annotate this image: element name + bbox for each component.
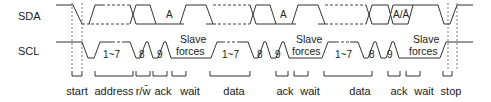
scl-bit9-3: 9 bbox=[387, 49, 393, 60]
scl-bit8-1: 8 bbox=[139, 49, 145, 60]
scl-slave-forces-2b: forces bbox=[292, 45, 321, 57]
scl-slave-forces-3b: forces bbox=[409, 45, 438, 57]
sda-waveform bbox=[56, 5, 473, 24]
scl-bits-3: 1~7 bbox=[335, 49, 352, 60]
scl-label: SCL bbox=[18, 45, 39, 57]
phase-wait-1: wait bbox=[179, 85, 200, 97]
phase-stop: stop bbox=[441, 85, 462, 97]
phase-wait-3: wait bbox=[413, 85, 434, 97]
scl-bit9-2: 9 bbox=[275, 49, 281, 60]
sda-ack-1: A bbox=[166, 9, 173, 20]
phase-brackets bbox=[72, 71, 452, 76]
sda-label: SDA bbox=[18, 10, 41, 22]
phase-data-2: data bbox=[349, 85, 371, 97]
scl-slave-forces-1b: forces bbox=[176, 45, 205, 57]
scl-bits-1: 1~7 bbox=[103, 49, 120, 60]
scl-slave-forces-3a: Slave bbox=[413, 33, 439, 45]
i2c-timing-diagram: SDA SCL bbox=[0, 0, 491, 102]
phase-ack-1: ack bbox=[154, 85, 172, 97]
phase-address: address bbox=[94, 85, 134, 97]
scl-slave-forces-1a: Slave bbox=[180, 33, 206, 45]
phase-start: start bbox=[66, 85, 87, 97]
scl-bit8-2: 8 bbox=[257, 49, 263, 60]
scl-bit8-3: 8 bbox=[369, 49, 375, 60]
sda-ack-3: A/Ā bbox=[393, 9, 409, 20]
phase-ack-3: ack bbox=[390, 85, 408, 97]
scl-bit9-1: 9 bbox=[157, 49, 163, 60]
sda-ack-2: A bbox=[280, 9, 287, 20]
phase-ack-2: ack bbox=[276, 85, 294, 97]
phase-data-1: data bbox=[223, 85, 245, 97]
scl-bits-2: 1~7 bbox=[222, 49, 239, 60]
phase-wait-2: wait bbox=[299, 85, 320, 97]
phase-rw: r/w̄ bbox=[136, 85, 151, 97]
stop-guides bbox=[448, 3, 457, 70]
scl-slave-forces-2a: Slave bbox=[296, 33, 322, 45]
